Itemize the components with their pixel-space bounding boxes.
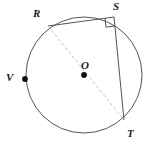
center-point-dot-o [81, 72, 87, 78]
point-label-s: S [113, 1, 119, 12]
point-label-o: O [81, 60, 89, 71]
point-label-t: T [127, 128, 134, 139]
chord-st [114, 17, 124, 120]
point-dot-v [22, 76, 28, 82]
geometry-canvas [0, 0, 161, 149]
point-label-r: R [33, 8, 40, 19]
geometry-figure: R S T V O [0, 0, 161, 149]
point-label-v: V [6, 72, 13, 83]
chord-rs [48, 17, 114, 26]
